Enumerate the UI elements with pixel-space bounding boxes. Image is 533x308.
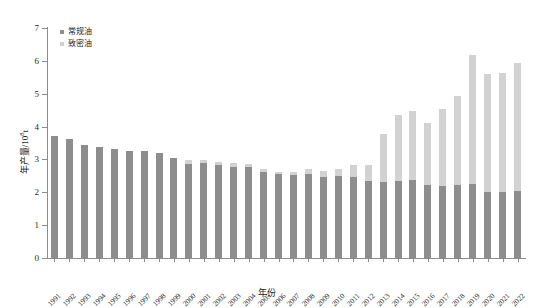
bar-column (245, 164, 252, 258)
bar-column (439, 109, 446, 258)
bar-column (320, 171, 327, 258)
bar-segment-conventional-oil (81, 145, 88, 258)
bar-column (335, 169, 342, 258)
bar-segment-conventional-oil (245, 167, 252, 258)
x-axis-tick (383, 258, 384, 262)
y-axis-tick (42, 159, 47, 160)
y-axis-tick (42, 127, 47, 128)
bar-column (499, 73, 506, 258)
bar-column (126, 151, 133, 258)
x-axis-tick (249, 258, 250, 262)
bar-segment-conventional-oil (409, 180, 416, 258)
x-axis-tick (338, 258, 339, 262)
bar-column (290, 172, 297, 258)
legend-swatch-conventional (60, 30, 64, 34)
bar-column (469, 55, 476, 258)
x-axis-tick (69, 258, 70, 262)
y-axis-tick (42, 192, 47, 193)
bar-segment-conventional-oil (514, 191, 521, 258)
bar-segment-conventional-oil (454, 185, 461, 258)
y-axis-title: 年产量/108t (18, 130, 31, 174)
x-axis-title: 年份 (0, 286, 533, 299)
bar-segment-conventional-oil (380, 182, 387, 258)
bar-column (230, 163, 237, 258)
y-axis-tick-label: 2 (35, 188, 40, 197)
bar-segment-tight-oil (424, 123, 431, 185)
bar-segment-conventional-oil (141, 151, 148, 258)
x-axis-tick (323, 258, 324, 262)
y-axis-tick-label: 6 (35, 56, 40, 65)
bar-column (380, 134, 387, 258)
chart-legend: 常规油 致密油 (60, 26, 92, 50)
bar-segment-conventional-oil (484, 192, 491, 258)
x-axis-tick (84, 258, 85, 262)
bar-column (305, 169, 312, 258)
x-axis-tick (353, 258, 354, 262)
x-axis-tick (518, 258, 519, 262)
x-axis-tick (204, 258, 205, 262)
bar-column (200, 160, 207, 258)
x-axis-tick (503, 258, 504, 262)
bar-segment-tight-oil (469, 55, 476, 184)
x-axis-tick (308, 258, 309, 262)
bar-segment-conventional-oil (305, 174, 312, 258)
bar-segment-conventional-oil (185, 164, 192, 258)
x-axis-tick (488, 258, 489, 262)
bar-column (365, 165, 372, 258)
bar-segment-conventional-oil (96, 147, 103, 258)
x-axis-tick (368, 258, 369, 262)
x-axis-tick (99, 258, 100, 262)
bar-column (454, 96, 461, 258)
bar-column (170, 158, 177, 258)
x-axis-tick (54, 258, 55, 262)
bar-segment-conventional-oil (170, 158, 177, 258)
plot-area: 0123456719911992199319941995199619971998… (47, 28, 525, 258)
bar-column (275, 172, 282, 258)
bar-column (81, 145, 88, 258)
x-axis-tick (159, 258, 160, 262)
y-axis-tick-label: 3 (35, 155, 40, 164)
bar-segment-tight-oil (380, 134, 387, 183)
bar-segment-tight-oil (484, 74, 491, 192)
bar-segment-conventional-oil (395, 181, 402, 258)
bar-column (215, 162, 222, 258)
y-axis-tick (42, 258, 47, 259)
legend-item-tight: 致密油 (60, 38, 92, 50)
x-axis-tick (443, 258, 444, 262)
bar-column (409, 111, 416, 258)
x-axis-tick (473, 258, 474, 262)
legend-item-conventional: 常规油 (60, 26, 92, 38)
x-axis-tick (398, 258, 399, 262)
bar-segment-conventional-oil (126, 151, 133, 258)
bar-segment-conventional-oil (290, 175, 297, 258)
bar-segment-conventional-oil (260, 172, 267, 258)
bar-segment-conventional-oil (51, 136, 58, 258)
bar-segment-tight-oil (514, 63, 521, 191)
bar-segment-conventional-oil (230, 167, 237, 258)
x-axis-tick (428, 258, 429, 262)
y-axis-tick-label: 4 (35, 122, 40, 131)
bar-segment-tight-oil (350, 165, 357, 177)
bar-column (111, 149, 118, 258)
bar-column (395, 115, 402, 258)
x-axis-tick (293, 258, 294, 262)
x-axis-tick (279, 258, 280, 262)
bar-segment-tight-oil (409, 111, 416, 179)
y-axis-tick-label: 7 (35, 24, 40, 33)
bar-segment-tight-oil (395, 115, 402, 181)
bar-segment-conventional-oil (439, 186, 446, 258)
bar-column (51, 136, 58, 258)
bar-segment-conventional-oil (111, 149, 118, 258)
y-axis-tick-label: 0 (35, 254, 40, 263)
bar-column (156, 153, 163, 258)
x-axis-tick (458, 258, 459, 262)
bar-column (141, 151, 148, 258)
legend-label-tight: 致密油 (68, 38, 92, 50)
y-axis-tick (42, 94, 47, 95)
bar-column (424, 123, 431, 258)
bar-segment-conventional-oil (275, 174, 282, 258)
bar-segment-conventional-oil (469, 184, 476, 258)
x-axis-tick (219, 258, 220, 262)
bar-segment-conventional-oil (424, 185, 431, 258)
